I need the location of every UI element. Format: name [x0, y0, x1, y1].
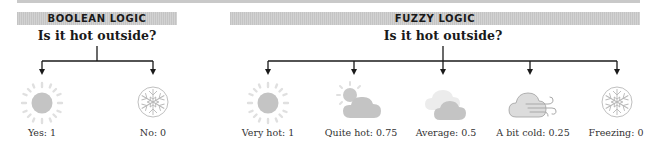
- sun-icon: [19, 80, 65, 126]
- windy-cloud-icon: [504, 80, 560, 124]
- fuzzy-option-very-hot-label: Very hot: 1: [242, 127, 294, 138]
- fuzzy-option-bit-cold-label: A bit cold: 0.25: [496, 127, 569, 138]
- fuzzy-option-average-label: Average: 0.5: [416, 127, 477, 138]
- decision-tree-connectors: [0, 0, 659, 148]
- sun-behind-cloud-icon: [336, 80, 386, 124]
- cloudy-icon: [422, 80, 472, 124]
- snowflake-icon: [600, 84, 634, 120]
- fuzzy-option-freezing-label: Freezing: 0: [589, 127, 644, 138]
- sun-icon: [245, 80, 291, 126]
- boolean-option-no-label: No: 0: [140, 127, 166, 138]
- snowflake-icon: [136, 84, 170, 120]
- boolean-option-yes-label: Yes: 1: [28, 127, 56, 138]
- fuzzy-option-quite-hot-label: Quite hot: 0.75: [325, 127, 397, 138]
